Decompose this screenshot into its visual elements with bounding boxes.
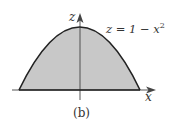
z-axis-label: z <box>68 10 76 24</box>
figure-caption: (b) <box>73 106 90 120</box>
curve-equation-exponent: 2 <box>160 21 165 30</box>
parabola-diagram: z x z = 1 − x2 (b) <box>0 0 169 134</box>
curve-equation-label: z = 1 − x2 <box>105 21 165 36</box>
x-axis-label: x <box>145 90 152 104</box>
curve-equation-main: z = 1 − x <box>105 22 160 36</box>
